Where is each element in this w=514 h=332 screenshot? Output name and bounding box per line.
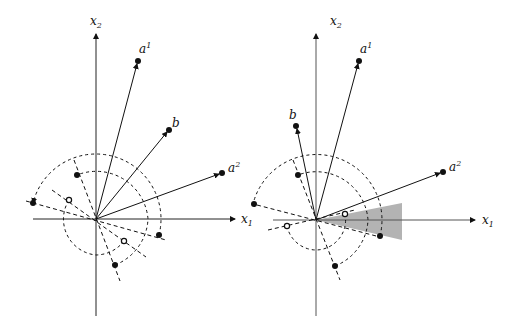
point-filled — [251, 201, 257, 207]
point-open — [342, 211, 347, 216]
x1-axis-label: x1 — [482, 213, 494, 229]
vector-a1 — [316, 64, 358, 220]
diagram-canvas: x2 x1 a1 b a2 — [0, 0, 514, 332]
point-b — [293, 123, 299, 129]
x2-axis-label: x2 — [330, 14, 342, 30]
label-b: b — [289, 108, 297, 122]
x1-axis-label: x1 — [241, 212, 253, 228]
point-filled — [377, 233, 383, 239]
x2-axis-label: x2 — [90, 14, 102, 30]
label-b: b — [172, 116, 180, 130]
label-a1: a1 — [139, 41, 151, 56]
point-a1 — [356, 58, 362, 64]
dashed-arcs — [33, 154, 161, 265]
left-panel: x2 x1 a1 b a2 — [26, 14, 253, 316]
point-filled — [295, 172, 301, 178]
right-panel: x2 x1 a1 b a2 — [251, 14, 494, 316]
point-open — [284, 223, 289, 228]
point-open — [66, 197, 71, 202]
vector-a1 — [96, 64, 137, 219]
point-filled — [332, 263, 338, 269]
point-filled — [30, 200, 36, 206]
shaded-cone — [316, 203, 402, 240]
label-a2: a2 — [228, 160, 240, 175]
point-a2 — [440, 169, 446, 175]
dashed-arcs — [253, 155, 382, 266]
point-filled — [112, 262, 118, 268]
point-filled — [156, 232, 162, 238]
label-a2: a2 — [449, 159, 461, 174]
point-a2 — [219, 170, 225, 176]
point-filled — [74, 172, 80, 178]
point-a1 — [135, 58, 141, 64]
label-a1: a1 — [360, 41, 372, 56]
point-open — [121, 238, 126, 243]
